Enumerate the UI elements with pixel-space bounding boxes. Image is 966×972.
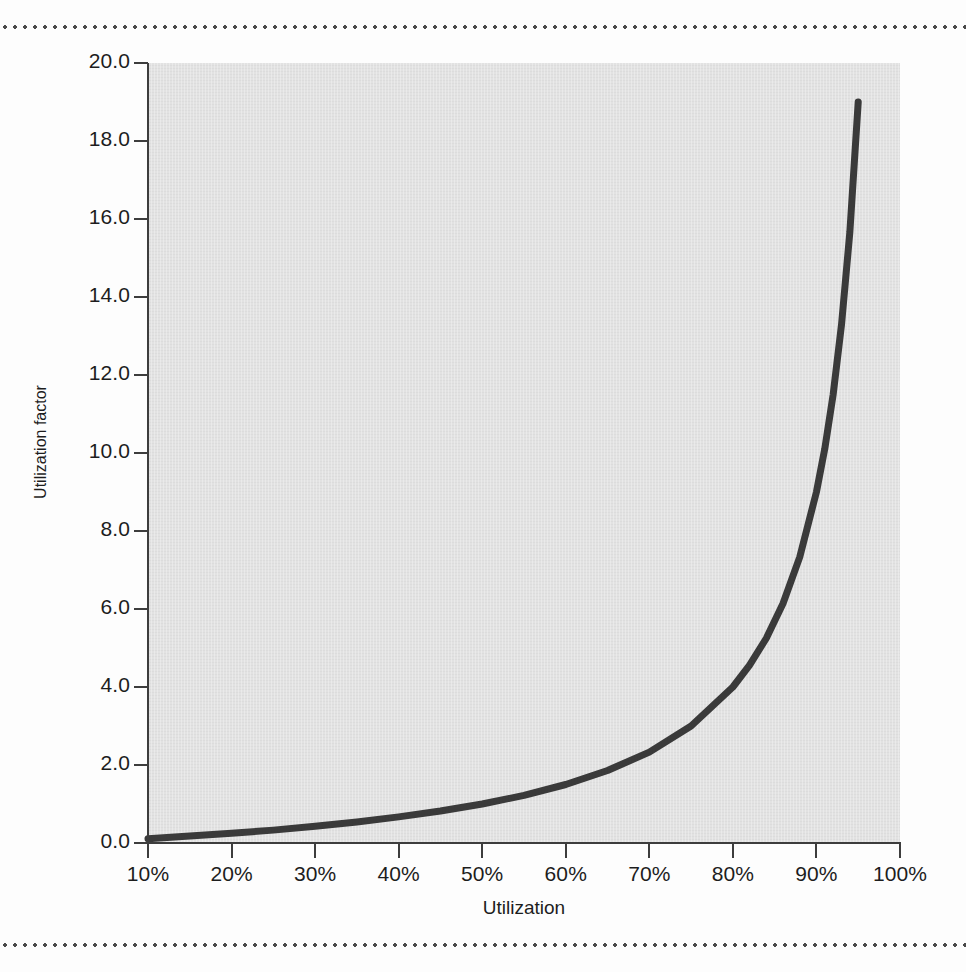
y-tick-label-14.0: 14.0: [50, 283, 130, 307]
y-tick-label-18.0: 18.0: [50, 127, 130, 151]
x-axis-title: Utilization: [148, 897, 900, 919]
top-dotted-divider: [0, 25, 966, 29]
y-tick-label-2.0: 2.0: [50, 751, 130, 775]
chart-page: 0.02.04.06.08.010.012.014.016.018.020.0 …: [0, 0, 966, 972]
y-tick-18.0: [134, 140, 148, 142]
x-tick-label-100%: 100%: [845, 862, 955, 886]
x-tick-10%: [147, 844, 149, 858]
x-tick-40%: [398, 844, 400, 858]
y-tick-8.0: [134, 530, 148, 532]
x-tick-60%: [565, 844, 567, 858]
bottom-dotted-divider: [0, 943, 966, 947]
y-tick-16.0: [134, 218, 148, 220]
curve-path: [148, 102, 858, 839]
y-tick-6.0: [134, 608, 148, 610]
y-tick-label-12.0: 12.0: [50, 361, 130, 385]
y-tick-label-10.0: 10.0: [50, 439, 130, 463]
y-tick-20.0: [134, 62, 148, 64]
x-tick-80%: [732, 844, 734, 858]
y-tick-label-20.0: 20.0: [50, 49, 130, 73]
x-axis-line: [148, 842, 901, 844]
y-tick-14.0: [134, 296, 148, 298]
y-tick-label-6.0: 6.0: [50, 595, 130, 619]
y-tick-label-8.0: 8.0: [50, 517, 130, 541]
y-tick-label-4.0: 4.0: [50, 673, 130, 697]
y-tick-12.0: [134, 374, 148, 376]
x-tick-90%: [815, 844, 817, 858]
y-tick-4.0: [134, 686, 148, 688]
y-axis-title: Utilization factor: [32, 362, 50, 522]
y-tick-0.0: [134, 842, 148, 844]
y-tick-2.0: [134, 764, 148, 766]
y-tick-label-0.0: 0.0: [50, 829, 130, 853]
x-tick-20%: [231, 844, 233, 858]
x-tick-100%: [899, 844, 901, 858]
x-tick-30%: [314, 844, 316, 858]
y-tick-10.0: [134, 452, 148, 454]
y-tick-label-16.0: 16.0: [50, 205, 130, 229]
x-tick-50%: [481, 844, 483, 858]
x-tick-70%: [648, 844, 650, 858]
utilization-factor-curve: [148, 63, 900, 843]
